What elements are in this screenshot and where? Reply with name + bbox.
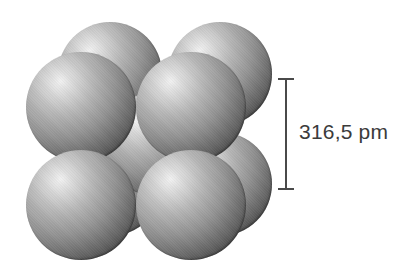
dimension-bar bbox=[276, 78, 296, 190]
dimension-cap-bottom bbox=[278, 188, 294, 190]
dimension-line bbox=[285, 80, 287, 188]
dimension-label: 316,5 pm bbox=[299, 119, 388, 145]
atom-sphere-front-bottom-right bbox=[136, 150, 246, 260]
bcc-unit-cell-figure: 316,5 pm bbox=[0, 0, 402, 279]
atom-sphere-front-top-left bbox=[26, 52, 136, 162]
atom-sphere-front-bottom-left bbox=[26, 150, 136, 260]
atom-cluster bbox=[0, 0, 280, 279]
atom-sphere-front-top-right bbox=[136, 52, 246, 162]
